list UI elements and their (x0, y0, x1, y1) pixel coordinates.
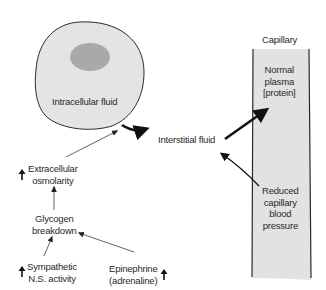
label-extracellular-osmolarity: Extracellular osmolarity (28, 163, 78, 186)
arrow-epinephrine-to-glycogen (79, 233, 134, 252)
increase-arrow-icon-sympathetic (18, 266, 26, 277)
arrow-osmolarity-to-cell (66, 131, 117, 157)
increase-arrow-icon-epinephrine (160, 269, 168, 280)
label-intracellular-fluid: Intracellular fluid (52, 96, 117, 108)
fluid-shift-diagram: Intracellular fluid Interstitial fluid C… (0, 0, 326, 290)
label-interstitial-fluid: Interstitial fluid (158, 134, 215, 146)
label-capillary: Capillary (262, 34, 297, 46)
nucleus (70, 43, 110, 71)
arrow-sympathetic-to-glycogen (44, 237, 52, 256)
arrow-intracellular-to-interstitial (122, 125, 146, 130)
label-normal-plasma-protein: Normal plasma [protein] (263, 64, 296, 99)
label-sympathetic-ns-activity: Sympathetic N.S. activity (27, 261, 77, 284)
label-epinephrine-adrenaline: Epinephrine (adrenaline) (109, 263, 158, 286)
label-glycogen-breakdown: Glycogen breakdown (32, 213, 77, 236)
cell-membrane (35, 22, 144, 129)
cell (35, 22, 144, 129)
increase-arrow-icon-osmolarity (18, 169, 26, 180)
label-reduced-capillary-blood-pressure: Reduced capillary blood pressure (262, 185, 299, 231)
